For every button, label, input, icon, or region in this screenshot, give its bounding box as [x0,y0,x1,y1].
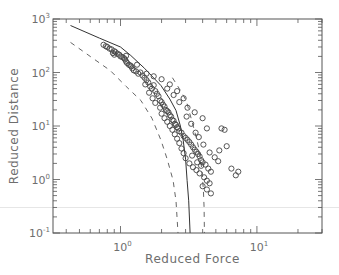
y-tick-label: 103 [32,12,50,26]
y-tick-label: 101 [32,119,50,133]
data-point [165,86,170,91]
data-point [224,144,229,149]
model-curve [71,26,191,234]
data-point [202,175,207,180]
data-point [177,100,182,105]
data-point [219,126,224,131]
plot-frame [53,19,322,233]
data-point [216,159,221,164]
data-point [190,165,195,170]
data-point [153,100,158,105]
y-tick-label: 102 [32,66,50,80]
y-tick-label: 10-1 [29,226,50,240]
axis-ticks [53,19,322,233]
x-tick-label: 100 [113,240,131,254]
data-point [217,148,222,153]
data-point [162,116,167,121]
tick-labels: 10010110-1100101102103 [29,12,268,254]
data-point [196,135,201,140]
data-point [194,168,199,173]
x-tick-label: 101 [250,240,268,254]
data-point [236,169,241,174]
data-point [190,153,195,158]
data-point [159,77,164,82]
lower-bound-curve [71,42,179,233]
data-point [181,151,186,156]
data-point [208,191,213,196]
data-point [201,142,206,147]
data-point [192,110,197,115]
data-point [177,141,182,146]
data-point [233,173,238,178]
x-axis-label: Reduced Force [145,252,240,266]
data-point [147,90,152,95]
data-point [222,127,227,132]
data-point [197,171,202,176]
chart: 10010110-1100101102103 Reduced Force Red… [0,0,339,275]
data-point [171,92,176,97]
curves [71,26,205,234]
data-point [200,116,205,121]
y-axis-label: Reduced Distance [7,68,21,184]
data-point [167,123,172,128]
data-point [204,126,209,131]
data-point [229,166,234,171]
y-tick-label: 100 [32,173,50,187]
data-point [207,150,212,155]
data-point [184,114,189,119]
data-point [134,62,139,67]
